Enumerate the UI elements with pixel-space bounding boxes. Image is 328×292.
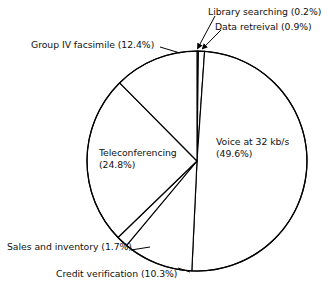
leader-line-group-iv-facsimile [160,47,180,53]
label-data-retrieval: Data retreival (0.9%) [215,21,312,33]
label-voice-line1: Voice at 32 kb/s [216,136,289,148]
label-credit-verification: Credit verification (10.3%) [56,268,177,280]
pie-slice-voice[interactable] [192,51,307,271]
label-sales-and-inventory: Sales and inventory (1.7%) [7,241,132,253]
label-teleconferencing-line2: (24.8%) [99,159,135,171]
label-library-searching: Library searching (0.2%) [208,6,321,18]
label-group-iv-facsimile: Group IV facsimile (12.4%) [31,39,154,51]
label-teleconferencing-line1: Teleconferencing [99,147,177,159]
pie-chart: Library searching (0.2%) Data retreival … [0,0,328,292]
label-voice-line2: (49.6%) [216,148,252,160]
leader-line-data-retreival [202,30,221,49]
leader-line-library-searching [198,16,215,49]
